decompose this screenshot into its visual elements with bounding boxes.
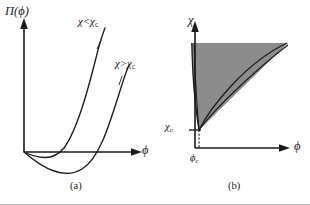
x-axis-b [195,144,290,152]
curve-chi-less-than-critical [24,28,105,158]
panel-b-plot [158,0,310,205]
y-axis-label-b: χ [188,14,194,27]
critical-chi-label: χc [165,122,173,133]
curve-label-chi-less-than-critical: χ<χc [78,16,98,29]
x-axis-a [24,148,142,156]
x-axis-label-b: ϕ [294,140,300,153]
greater-than-operator: > [120,57,127,69]
leader-chi-greater [119,76,122,85]
y-axis-label-a: Π(ϕ) [5,5,29,18]
figure-root: Π(ϕ) ϕ χ<χc χ>χc (a) [0,0,310,205]
critical-subscript: c [170,126,173,133]
critical-subscript: c [132,63,135,71]
critical-subscript: c [95,21,98,29]
x-axis-label-a: ϕ [142,144,148,157]
critical-phi-label: ϕc [190,153,199,164]
panel-b: χ ϕ χc ϕc (b) [158,0,310,205]
panel-a-plot [0,0,158,205]
critical-subscript: c [195,157,198,164]
curve-label-chi-greater-than-critical: χ>χc [115,58,135,71]
panel-caption-b: (b) [228,181,240,192]
less-than-operator: < [83,15,90,27]
y-axis-a [20,18,28,152]
panel-caption-a: (a) [70,181,82,192]
panel-a: Π(ϕ) ϕ χ<χc χ>χc (a) [0,0,158,205]
